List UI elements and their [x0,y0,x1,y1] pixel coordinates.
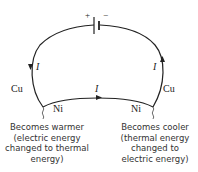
right-caption-line: electric energy) [114,154,196,165]
cu-label-left: Cu [11,84,23,94]
left-caption: Becomes warmer (electric energy changed … [2,122,92,164]
current-label-bottom: I [95,84,98,94]
left-caption-line: energy) [2,154,92,165]
ni-label-right: Ni [131,104,141,114]
ni-label-left: Ni [53,104,63,114]
current-arrow-right-bottom [96,95,102,100]
copper-wire-left [32,25,94,107]
left-caption-line: changed to thermal [2,143,92,154]
left-junction-marker [42,107,44,119]
battery-plus-label: + [85,11,90,20]
right-caption-line: Becomes cooler [114,122,196,133]
right-caption-line: (thermal energy [114,133,196,144]
left-caption-line: (electric energy [2,133,92,144]
current-label-left: I [36,62,39,72]
right-caption-line: changed to [114,143,196,154]
battery-minus-label: − [103,11,108,20]
current-label-right: I [153,62,156,72]
right-caption: Becomes cooler (thermal energy changed t… [114,122,196,164]
right-junction-marker [152,107,154,119]
cu-label-right: Cu [163,84,175,94]
left-caption-line: Becomes warmer [2,122,92,133]
